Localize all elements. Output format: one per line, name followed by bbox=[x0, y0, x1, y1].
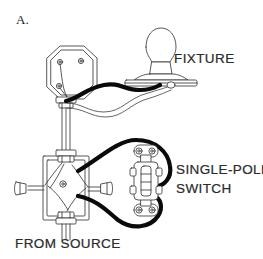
switch-toggle-lever[interactable] bbox=[141, 166, 151, 196]
ceiling-box-screw-hole bbox=[56, 83, 61, 88]
switch-mounting-screw[interactable] bbox=[149, 148, 155, 154]
wire-nut-right bbox=[88, 182, 113, 195]
fixture-canopy bbox=[134, 74, 188, 80]
fixture-neutral-terminal bbox=[167, 82, 175, 88]
wiring-diagram-canvas: A. bbox=[0, 0, 263, 259]
source-label: FROM SOURCE bbox=[15, 236, 121, 251]
junction-box-top-clamp bbox=[58, 156, 74, 162]
junction-box-bottom-clamp bbox=[58, 212, 74, 218]
switch-mounting-screw[interactable] bbox=[136, 148, 142, 154]
junction-box-bottom-clamp-plate bbox=[56, 218, 76, 224]
switch-terminal-screw[interactable] bbox=[156, 168, 162, 176]
switch-terminal-screw[interactable] bbox=[130, 186, 136, 194]
fixture-globe bbox=[146, 28, 176, 62]
clamp-plate-lower bbox=[59, 103, 73, 108]
switch-mounting-screw[interactable] bbox=[149, 207, 155, 213]
switch-terminal-screw[interactable] bbox=[130, 168, 136, 176]
switch-terminal-screw[interactable] bbox=[156, 186, 162, 194]
panel-letter: A. bbox=[16, 12, 29, 27]
fixture-neck bbox=[150, 62, 172, 74]
single-pole-switch[interactable] bbox=[130, 145, 162, 216]
fixture-label: FIXTURE bbox=[174, 51, 235, 66]
wiring-diagram: A. bbox=[0, 0, 263, 259]
vertical-run-cable bbox=[62, 108, 70, 156]
switch-label-line1: SINGLE-POLE bbox=[176, 162, 263, 177]
wire-nut-left bbox=[15, 182, 45, 195]
junction-box-ground-screw bbox=[60, 181, 66, 187]
junction-box-top-clamp-plate bbox=[56, 150, 76, 156]
ceiling-box-screw-hole bbox=[78, 58, 83, 63]
switch-mounting-screw[interactable] bbox=[136, 207, 142, 213]
junction-box bbox=[43, 150, 89, 224]
switch-label-line2: SWITCH bbox=[176, 181, 232, 196]
